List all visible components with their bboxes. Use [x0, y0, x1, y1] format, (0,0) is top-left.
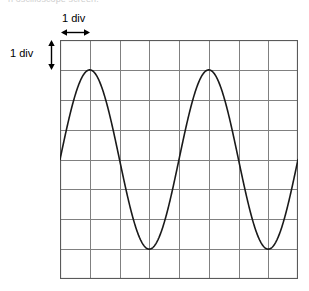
- clipped-title-text: n oscilloscope screen.: [8, 0, 298, 4]
- horizontal-div-label: 1 div: [62, 12, 85, 24]
- scope-grid-and-trace: [60, 40, 298, 279]
- vertical-div-label: 1 div: [10, 47, 33, 59]
- oscilloscope-figure: n oscilloscope screen. 1 div 1 div: [0, 0, 309, 291]
- oscilloscope-screen: [60, 40, 298, 279]
- double-headed-horizontal-arrow-icon: [60, 27, 94, 38]
- double-headed-vertical-arrow-icon: [46, 39, 57, 74]
